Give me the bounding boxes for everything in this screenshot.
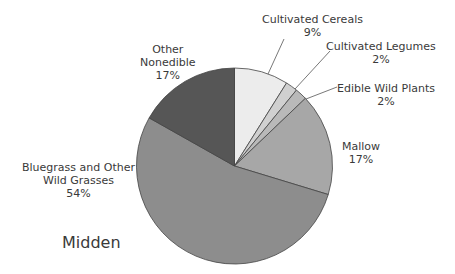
- label-cultivated-legumes: Cultivated Legumes 2%: [326, 40, 436, 66]
- label-pct: 17%: [342, 153, 380, 166]
- label-pct: 2%: [337, 95, 435, 108]
- label-text: Edible Wild Plants: [337, 82, 435, 95]
- label-other-nonedible: Other Nonedible 17%: [140, 43, 196, 82]
- label-pct: 54%: [22, 187, 135, 200]
- label-text-2: Wild Grasses: [22, 174, 135, 187]
- label-text: Cultivated Cereals: [262, 13, 363, 26]
- label-edible-wild-plants: Edible Wild Plants 2%: [337, 82, 435, 108]
- label-pct: 17%: [140, 69, 196, 82]
- label-text: Other: [140, 43, 196, 56]
- label-pct: 2%: [326, 53, 436, 66]
- leader-line-cereals: [268, 39, 284, 74]
- label-text: Mallow: [342, 140, 380, 153]
- label-cultivated-cereals: Cultivated Cereals 9%: [262, 13, 363, 39]
- leader-line-legumes: [295, 51, 330, 89]
- label-mallow: Mallow 17%: [342, 140, 380, 166]
- label-bluegrass: Bluegrass and Other Wild Grasses 54%: [22, 161, 135, 200]
- chart-title: Midden: [62, 233, 121, 252]
- label-text: Bluegrass and Other: [22, 161, 135, 174]
- label-text-2: Nonedible: [140, 56, 196, 69]
- label-text: Cultivated Legumes: [326, 40, 436, 53]
- leader-line-edible: [306, 87, 337, 99]
- label-pct: 9%: [262, 26, 363, 39]
